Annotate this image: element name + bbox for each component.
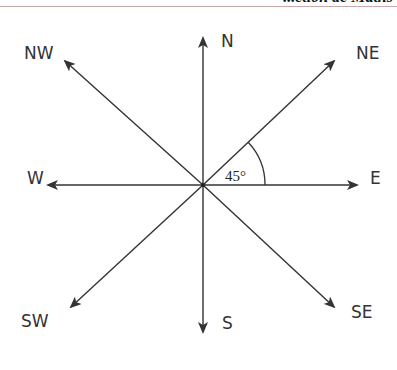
arrow-southwest <box>71 185 203 307</box>
compass-center-dot <box>201 183 205 187</box>
label-southwest: SW <box>21 313 49 330</box>
label-east: E <box>370 170 381 187</box>
arrow-southeast <box>203 185 334 307</box>
angle-label: 45° <box>225 169 246 184</box>
label-northwest: NW <box>24 45 54 62</box>
label-southeast: SE <box>351 304 373 321</box>
arrow-northeast <box>203 61 334 185</box>
label-north: N <box>221 33 234 50</box>
angle-arc-45 <box>248 142 265 185</box>
label-south: S <box>222 315 233 332</box>
label-west: W <box>27 170 44 187</box>
label-northeast: NE <box>356 45 379 62</box>
arrow-northwest <box>65 61 203 185</box>
compass-rose-diagram <box>0 0 397 370</box>
